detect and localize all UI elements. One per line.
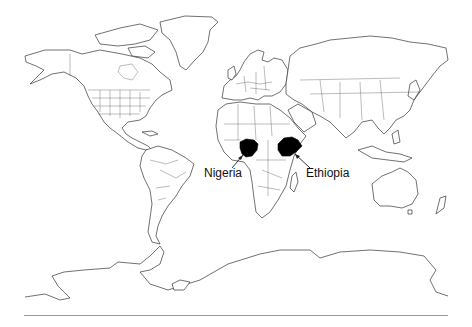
caribbean-islands <box>142 131 158 136</box>
south-america <box>140 146 194 244</box>
greenland <box>160 16 218 70</box>
nigeria-label: Nigeria <box>204 166 242 180</box>
philippines <box>392 130 400 144</box>
new-zealand <box>436 196 446 214</box>
madagascar <box>290 172 298 192</box>
ethiopia-label: Ethiopia <box>306 166 349 180</box>
indonesia <box>358 146 412 162</box>
antarctica <box>25 246 448 300</box>
tasmania <box>408 210 412 214</box>
world-map <box>0 0 472 327</box>
arctic-islands <box>95 24 158 46</box>
horizontal-rule <box>24 315 448 316</box>
australia <box>372 168 418 208</box>
